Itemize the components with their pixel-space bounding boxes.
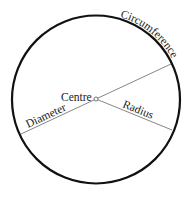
centre-label: Centre: [61, 91, 92, 103]
circumference-label-path: Circumference: [119, 7, 180, 59]
circumference-label: Circumference: [119, 7, 180, 59]
centre-point: [94, 97, 98, 101]
circle-diagram: Centre Diameter Radius Circumference: [0, 0, 189, 198]
radius-label: Radius: [121, 98, 156, 121]
